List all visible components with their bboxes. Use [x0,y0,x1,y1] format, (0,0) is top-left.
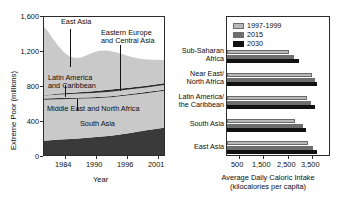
bar-x-tickmark-2500 [288,156,289,159]
area-x-axis-title: Year [93,175,108,184]
leader-line-eastern-europe [120,45,121,91]
area-label-east-asia: East Asia [61,18,91,26]
area-y-tick-1200: 1,200 [6,47,39,56]
legend-swatch-2015 [233,32,244,38]
bar-latin-america-caribbean-2030 [227,105,315,109]
bar-group-latin-america-caribbean [227,96,329,112]
bar-sub-saharan-africa-2030 [227,59,299,63]
legend-label-2015: 2015 [247,30,263,39]
bar-x-tick-3500: 3,500 [301,160,320,169]
area-x-tick-1996: 1996 [117,160,133,169]
bar-group-near-east-north-africa [227,73,329,89]
bar-latin-america-caribbean-1997-1999 [227,96,307,100]
bar-south-asia-2030 [227,128,306,132]
legend-item-1997-1999: 1997-1999 [233,22,281,30]
bar-east-asia-2030 [227,150,317,154]
legend-label-2030: 2030 [247,39,263,48]
area-y-tick-800: 800 [6,82,39,91]
bar-near-east-north-africa-1997-1999 [227,73,312,77]
legend-item-2015: 2015 [233,31,281,39]
bar-x-tickmark-500 [239,156,240,159]
area-label-south-asia: South Asia [80,120,115,128]
area-label-middle-east: Middle East and North Africa [47,105,139,113]
bar-x-tickmark-3500 [312,156,313,159]
area-x-tick-1984: 1984 [55,160,71,169]
legend-label-1997-1999: 1997-1999 [247,21,281,30]
bar-x-tick-1500: 1,500 [252,160,271,169]
bar-latin-america-caribbean-2015 [227,101,311,105]
bar-x-tick-500: 500 [231,160,243,169]
bar-category-label-sub-saharan-africa-line2: Africa [178,55,224,63]
area-y-tick-400: 400 [6,117,39,126]
figure-root: Extreme Poor (millions) 1,600 1,200 800 … [0,0,346,204]
area-x-tickmark-1990 [96,156,97,159]
bar-sub-saharan-africa-2015 [227,55,294,59]
area-label-latin-america-line2: and Caribbean [48,82,96,90]
bar-near-east-north-africa-2015 [227,78,315,82]
bar-plot-region: 1997-1999 2015 2030 [226,16,330,156]
bar-group-east-asia [227,141,329,157]
bar-near-east-north-africa-2030 [227,82,317,86]
leader-line-east-asia [70,29,71,67]
area-x-tickmark-1984 [65,156,66,159]
bar-category-label-south-asia: South Asia [178,120,224,128]
area-x-tick-2001: 2001 [148,160,164,169]
stacked-area-chart: Extreme Poor (millions) 1,600 1,200 800 … [0,0,186,204]
area-y-tick-1600: 1,600 [6,12,39,21]
bar-east-asia-1997-1999 [227,141,308,145]
legend-swatch-1997-1999 [233,23,244,29]
bar-category-label-east-asia: East Asia [178,143,224,151]
area-y-tick-0: 0 [6,152,39,161]
bar-south-asia-1997-1999 [227,119,295,123]
bar-x-axis-title: Average Daily Caloric Intake (kilocalori… [200,174,336,191]
legend-item-2030: 2030 [233,40,281,48]
area-x-tickmark-2001 [158,156,159,159]
grouped-bar-chart: Sub-Saharan Africa Near East/ North Afri… [186,0,346,204]
bar-south-asia-2015 [227,124,303,128]
bar-x-tick-2500: 2,500 [277,160,296,169]
area-x-tick-1990: 1990 [86,160,102,169]
bar-east-asia-2015 [227,146,313,150]
bar-category-label-latin-america-caribbean-line2: the Caribbean [172,101,224,109]
area-label-eastern-europe-line2: and Central Asia [101,37,155,45]
bar-group-sub-saharan-africa [227,50,329,66]
legend-swatch-2030 [233,41,244,47]
bar-chart-legend: 1997-1999 2015 2030 [233,22,281,49]
bar-sub-saharan-africa-1997-1999 [227,50,289,54]
area-x-tickmark-1996 [127,156,128,159]
bar-x-axis-title-line2: (kilocalories per capita) [200,183,336,192]
area-y-tickmark-0 [40,156,43,157]
bar-category-label-near-east-north-africa-line2: North Africa [178,78,224,86]
bar-group-south-asia [227,119,329,135]
bar-x-tickmark-1500 [263,156,264,159]
